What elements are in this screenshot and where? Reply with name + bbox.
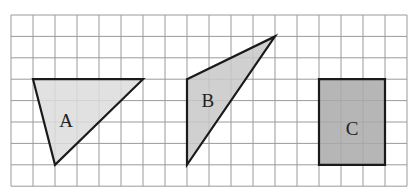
grid-diagram: A B C: [0, 0, 414, 188]
rectangle-c-label: C: [346, 118, 359, 139]
triangle-a-label: A: [59, 110, 73, 131]
triangle-b-label: B: [202, 90, 215, 111]
